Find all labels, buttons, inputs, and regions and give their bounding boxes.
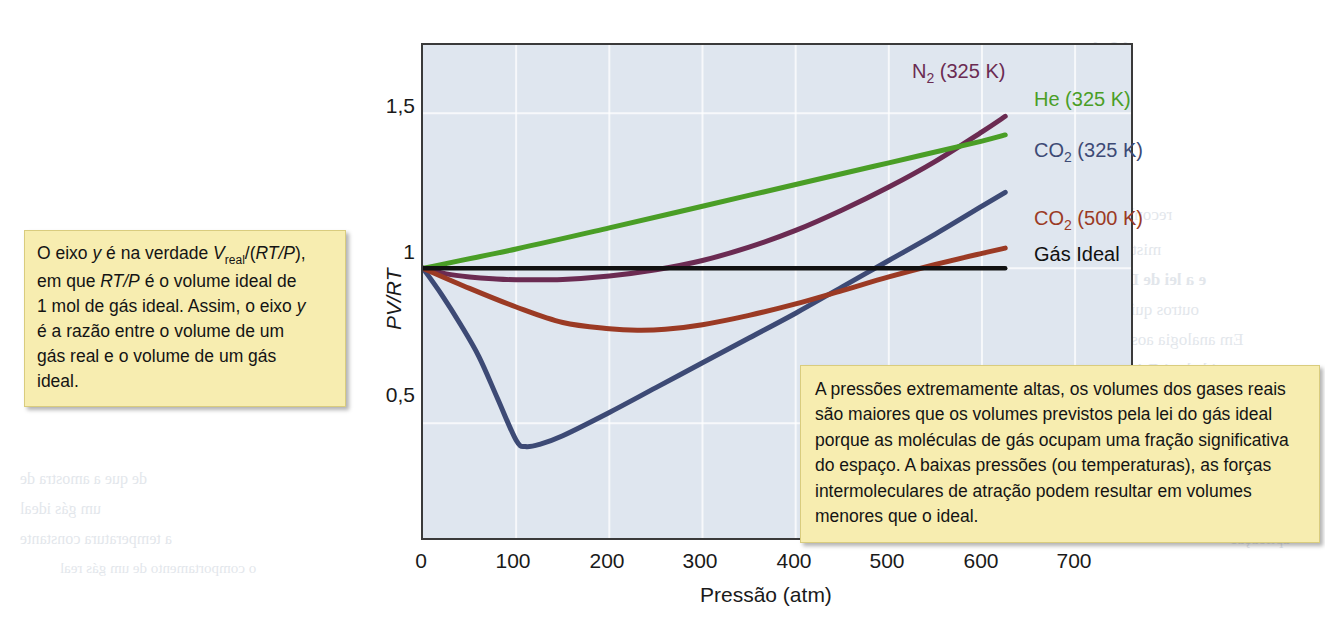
callout-right-text: A pressões extremamente altas, os volume… (815, 377, 1305, 529)
y-axis-tick-1: 1 (345, 240, 415, 264)
curve-label-co2-325-sub: 2 (1064, 149, 1072, 165)
curve-label-co2-500-rest: (500 K) (1072, 207, 1143, 229)
text-run: é na verdade (101, 243, 213, 263)
callout-y-axis-explanation: O eixo y é na verdade Vreal/(RT/P), em q… (24, 230, 346, 407)
text-run-sub: real (225, 253, 245, 267)
x-axis-tick-100: 100 (473, 549, 553, 573)
y-axis-tick-0.5: 0,5 (345, 383, 415, 407)
text-run: ), (295, 243, 306, 263)
curve-label-co2-325-rest: (325 K) (1072, 139, 1143, 161)
callout-high-pressure-explanation: A pressões extremamente altas, os volume… (800, 365, 1320, 543)
callout-left-line-3: 1 mol de gás ideal. Assim, o eixo y (37, 294, 333, 319)
curve-label-co2-500-sub: 2 (1064, 217, 1072, 233)
curve-label-he: He (325 K) (1034, 88, 1131, 111)
curve-label-co2-500-text: CO (1034, 207, 1064, 229)
y-axis-tick-1.5: 1,5 (345, 94, 415, 118)
text-run-italic: RT/P (100, 271, 140, 291)
curve-label-n2-rest: (325 K) (934, 60, 1005, 82)
callout-left-line-4: é a razão entre o volume de um (37, 319, 333, 344)
x-axis-tick-600: 600 (941, 549, 1021, 573)
text-run: /( (245, 243, 256, 263)
x-axis-tick-500: 500 (847, 549, 927, 573)
callout-left-line-6: ideal. (37, 369, 333, 394)
text-run-italic: y (92, 243, 101, 263)
text-run: O eixo (37, 243, 92, 263)
text-run-italic: RT/P (256, 243, 296, 263)
text-run-italic: V (213, 243, 225, 263)
text-run: em que (37, 271, 100, 291)
curve-label-co2-500: CO2 (500 K) (1034, 207, 1143, 233)
x-axis-tick-300: 300 (660, 549, 740, 573)
text-run: 1 mol de gás ideal. Assim, o eixo (37, 296, 297, 316)
curve-label-n2-text: N (912, 60, 926, 82)
curve-n2-325-k (423, 116, 1005, 280)
curve-label-co2-325-text: CO (1034, 139, 1064, 161)
curve-he-325-k (423, 135, 1005, 268)
callout-left-line-1: O eixo y é na verdade Vreal/(RT/P), (37, 241, 333, 269)
y-axis-title: PV/RT (382, 269, 406, 330)
x-axis-tick-700: 700 (1034, 549, 1114, 573)
x-axis-tick-400: 400 (754, 549, 834, 573)
text-run: é o volume ideal de (140, 271, 297, 291)
x-axis-title: Pressão (atm) (700, 583, 832, 607)
curve-label-ideal-gas: Gás Ideal (1034, 243, 1120, 266)
curve-label-n2: N2 (325 K) (912, 60, 1005, 86)
callout-left-line-2: em que RT/P é o volume ideal de (37, 269, 333, 294)
text-run-italic: y (297, 296, 306, 316)
x-axis-tick-200: 200 (567, 549, 647, 573)
callout-left-line-5: gás real e o volume de um gás (37, 344, 333, 369)
curve-co2-500-k (423, 248, 1005, 330)
curve-label-co2-325: CO2 (325 K) (1034, 139, 1143, 165)
x-axis-tick-0: 0 (381, 549, 461, 573)
